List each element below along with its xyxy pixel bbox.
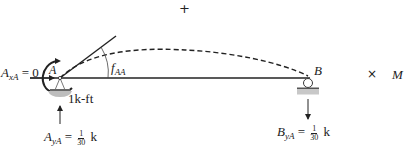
reaction-by-unit: k [324,124,331,139]
reaction-ay-sub: yA [52,136,62,146]
reaction-ax-rhs: = 0 [22,65,39,80]
reaction-ax-label: AxA = 0 [1,66,39,82]
reaction-by-main: B [277,124,285,139]
angle-label-sub: AA [115,67,126,77]
reaction-ay-main: A [44,129,52,144]
moment-label: 1k-ft [68,92,93,105]
plus-marker: + [179,2,190,15]
m-label: M [392,68,403,81]
point-b-label: B [314,64,322,77]
point-a-label: A [49,64,56,76]
reaction-by-eq: = [298,124,305,139]
deflected-shape [60,49,308,78]
reaction-ax-main: A [1,65,9,80]
reaction-ay-label: AyA = 130 k [44,130,97,147]
reaction-ax-sub: xA [9,72,19,82]
reaction-ay-unit: k [91,129,98,144]
reaction-ay-fraction: 130 [77,130,85,147]
reaction-by-sub: yA [285,131,295,141]
roller-support-b [297,79,319,95]
reaction-ay-eq: = [65,129,72,144]
angle-label: fAA [111,61,126,77]
times-marker: × [367,68,377,80]
angle-arc [101,47,108,78]
beam-diagram [0,0,404,150]
moment-arc [43,61,72,93]
reaction-by-fraction: 130 [310,125,318,142]
reaction-by-label: ByA = 130 k [277,125,330,142]
